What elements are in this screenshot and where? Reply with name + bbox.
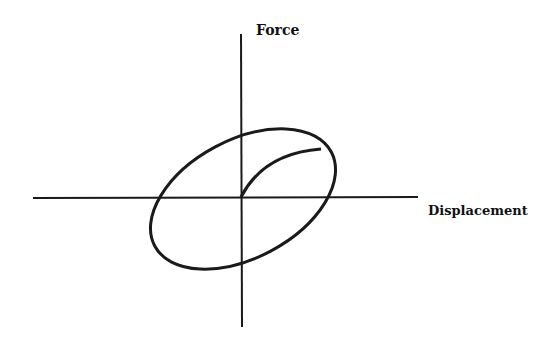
diagram-canvas (0, 0, 557, 340)
x-axis-label: Displacement (428, 203, 528, 218)
hysteresis-ellipse (127, 100, 359, 298)
y-axis-label: Force (256, 22, 299, 38)
x-axis (33, 197, 418, 198)
initial-loading-curve (241, 149, 321, 197)
y-axis (241, 34, 242, 327)
